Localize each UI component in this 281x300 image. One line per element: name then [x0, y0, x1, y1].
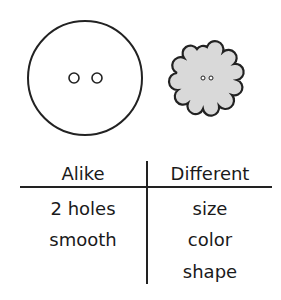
alike-header: Alike — [20, 163, 146, 184]
different-item: shape — [148, 256, 272, 287]
alike-item: 2 holes — [20, 193, 146, 224]
t-chart-horizontal-divider — [20, 186, 272, 188]
alike-item: smooth — [20, 224, 146, 255]
different-item: color — [148, 224, 272, 255]
different-header: Different — [148, 163, 272, 184]
different-item: size — [148, 193, 272, 224]
t-chart: Alike Different 2 holes smooth size colo… — [0, 0, 281, 300]
